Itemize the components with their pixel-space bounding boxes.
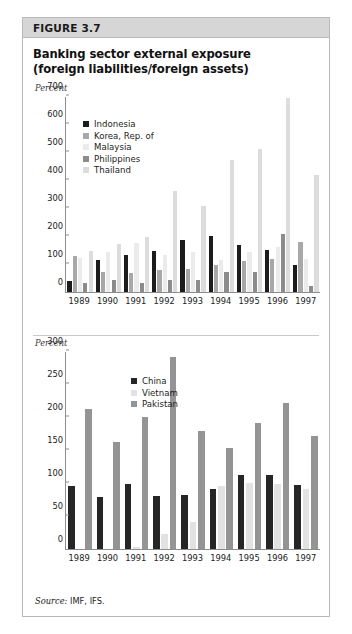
legend-swatch-icon xyxy=(83,133,89,139)
bar xyxy=(196,280,200,291)
bar xyxy=(85,409,92,549)
y-axis-tick-label: 300 xyxy=(47,193,63,203)
bar xyxy=(142,417,149,549)
x-axis-tick-label: 1993 xyxy=(178,553,206,563)
x-axis-ticks-top: 198919901991199219931994199519961997 xyxy=(65,296,320,306)
figure-source: Source: IMF, IFS. xyxy=(35,596,105,606)
y-axis-tick-label: 200 xyxy=(47,221,63,231)
source-text: IMF, IFS. xyxy=(70,596,105,606)
bar xyxy=(314,175,318,291)
y-axis-tick-mark xyxy=(66,481,69,482)
bar-group xyxy=(207,97,235,292)
bar-group xyxy=(292,97,320,292)
bar xyxy=(298,242,302,292)
bar-group xyxy=(235,352,263,549)
bar xyxy=(83,283,87,291)
bar xyxy=(124,255,128,291)
y-axis-tick-mark xyxy=(66,415,69,416)
y-axis-tick-label: 300 xyxy=(47,336,63,346)
y-axis-tick-label: 600 xyxy=(47,109,63,119)
legend-bottom: ChinaVietnamPakistan xyxy=(131,376,178,411)
x-axis-tick-label: 1990 xyxy=(93,296,121,306)
legend-item-label: Malaysia xyxy=(94,142,132,152)
bar xyxy=(133,547,140,549)
bar xyxy=(238,475,245,549)
bar xyxy=(140,283,144,291)
bar xyxy=(274,484,281,549)
bar xyxy=(286,98,290,291)
legend-swatch-icon xyxy=(131,401,137,407)
figure-header-band: FIGURE 3.7 xyxy=(23,18,329,38)
y-axis-tick-label: 0 xyxy=(58,534,63,544)
bar xyxy=(173,191,177,292)
legend-swatch-icon xyxy=(83,121,89,127)
x-axis-tick-label: 1990 xyxy=(93,553,121,563)
legend-item-label: Thailand xyxy=(94,165,131,175)
bar xyxy=(157,270,161,292)
bar xyxy=(294,485,301,548)
bar xyxy=(266,475,273,549)
y-axis-tick-mark xyxy=(66,448,69,449)
y-axis-tick-label: 700 xyxy=(47,81,63,91)
x-axis-tick-label: 1997 xyxy=(292,296,320,306)
source-prefix: Source: xyxy=(35,596,67,606)
bar xyxy=(101,272,105,292)
legend-item-label: Korea, Rep. of xyxy=(94,131,154,141)
bar xyxy=(152,251,156,292)
bar xyxy=(180,240,184,292)
x-axis-tick-label: 1992 xyxy=(150,553,178,563)
y-axis-tick-label: 0 xyxy=(58,277,63,287)
y-axis-tick-mark xyxy=(66,382,69,383)
bar xyxy=(210,489,217,548)
y-axis-tick-label: 250 xyxy=(47,369,63,379)
x-axis-tick-label: 1992 xyxy=(150,296,178,306)
x-axis-ticks-bottom: 198919901991199219931994199519961997 xyxy=(65,553,320,563)
figure-title-line-2: (foreign liabilities/foreign assets) xyxy=(33,62,319,77)
legend-item-label: Indonesia xyxy=(94,119,136,129)
bar xyxy=(96,260,100,291)
bar xyxy=(163,255,167,291)
bar xyxy=(242,261,246,291)
bar xyxy=(226,448,233,549)
y-axis-tick-label: 100 xyxy=(47,249,63,259)
legend-swatch-icon xyxy=(83,156,89,162)
bar xyxy=(304,259,308,292)
x-axis-tick-label: 1994 xyxy=(207,296,235,306)
bar xyxy=(311,436,318,548)
y-axis-tick-mark xyxy=(66,349,69,350)
chart-panel-top: Percent IndonesiaKorea, Rep. ofMalaysiaP… xyxy=(31,83,321,333)
x-axis-tick-label: 1989 xyxy=(65,296,93,306)
x-axis-tick-label: 1993 xyxy=(178,296,206,306)
bar xyxy=(255,423,262,548)
bar xyxy=(125,484,132,549)
y-axis-tick-label: 500 xyxy=(47,137,63,147)
bar xyxy=(191,252,195,292)
bar xyxy=(106,252,110,291)
bar xyxy=(270,259,274,292)
legend-item: China xyxy=(131,376,178,388)
y-axis-tick-mark xyxy=(66,150,69,151)
bar xyxy=(303,489,310,548)
legend-item: Philippines xyxy=(83,153,154,165)
bar xyxy=(112,280,116,292)
bar-group xyxy=(179,352,207,549)
legend-swatch-icon xyxy=(131,378,137,384)
y-axis-tick-mark xyxy=(66,94,69,95)
bar-group xyxy=(207,352,235,549)
bar xyxy=(276,247,280,292)
y-axis-tick-label: 200 xyxy=(47,402,63,412)
bar-group xyxy=(151,97,179,292)
y-axis-tick-mark xyxy=(66,234,69,235)
bar xyxy=(186,269,190,292)
bar xyxy=(209,236,213,292)
legend-item: Thailand xyxy=(83,165,154,177)
figure-number-label: FIGURE 3.7 xyxy=(33,22,101,34)
bar-group xyxy=(264,97,292,292)
bar xyxy=(253,272,257,292)
legend-item: Malaysia xyxy=(83,142,154,154)
bar xyxy=(113,442,120,549)
legend-swatch-icon xyxy=(83,144,89,150)
x-axis-tick-label: 1989 xyxy=(65,553,93,563)
chart-panel-bottom: Percent ChinaVietnamPakistan 05010015020… xyxy=(31,338,321,590)
figure-title: Banking sector external exposure (foreig… xyxy=(23,38,329,79)
